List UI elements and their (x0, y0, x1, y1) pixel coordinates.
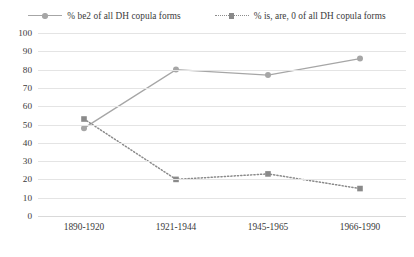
plot-wrapper: 1009080706050403020100 1890-19201921-194… (0, 26, 414, 257)
series-line (84, 119, 360, 189)
legend-label-be2: % be2 of all DH copula forms (67, 11, 180, 21)
y-tick-label: 40 (23, 138, 32, 148)
y-tick-label: 10 (23, 193, 32, 203)
y-axis: 1009080706050403020100 (0, 26, 36, 216)
y-tick-label: 90 (23, 46, 32, 56)
plot-area (38, 33, 406, 216)
legend-entry-is-are-zero: % is, are, 0 of all DH copula forms (215, 11, 386, 21)
gridline (38, 179, 406, 180)
line-chart: % be2 of all DH copula forms % is, are, … (0, 0, 414, 257)
legend-key-line-icon (28, 11, 62, 21)
y-tick-label: 30 (23, 156, 32, 166)
y-tick-label: 80 (23, 65, 32, 75)
legend-label-is-are-zero: % is, are, 0 of all DH copula forms (254, 11, 386, 21)
gridline (38, 125, 406, 126)
x-axis-line (38, 216, 406, 217)
data-point-marker (357, 56, 363, 62)
legend-key-dotted-icon (215, 11, 249, 21)
data-point-marker (81, 116, 87, 122)
y-tick-label: 50 (23, 120, 32, 130)
gridline (38, 70, 406, 71)
x-tick-label: 1921-1944 (130, 222, 222, 244)
data-point-marker (357, 186, 363, 192)
y-tick-label: 20 (23, 174, 32, 184)
legend-entry-be2: % be2 of all DH copula forms (28, 11, 180, 21)
y-tick-label: 0 (27, 211, 32, 221)
gridline (38, 106, 406, 107)
y-tick-label: 60 (23, 101, 32, 111)
x-tick-label: 1966-1990 (314, 222, 406, 244)
chart-legend: % be2 of all DH copula forms % is, are, … (0, 6, 414, 26)
x-tick-label: 1945-1965 (222, 222, 314, 244)
gridline (38, 143, 406, 144)
gridline (38, 161, 406, 162)
gridline (38, 88, 406, 89)
x-axis: 1890-19201921-19441945-19651966-1990 (38, 222, 406, 244)
y-tick-label: 100 (18, 28, 32, 38)
data-point-marker (81, 125, 87, 131)
x-tick-label: 1890-1920 (38, 222, 130, 244)
data-point-marker (265, 72, 271, 78)
data-point-marker (265, 171, 271, 177)
y-tick-label: 70 (23, 83, 32, 93)
gridline (38, 51, 406, 52)
gridline (38, 33, 406, 34)
gridline (38, 198, 406, 199)
